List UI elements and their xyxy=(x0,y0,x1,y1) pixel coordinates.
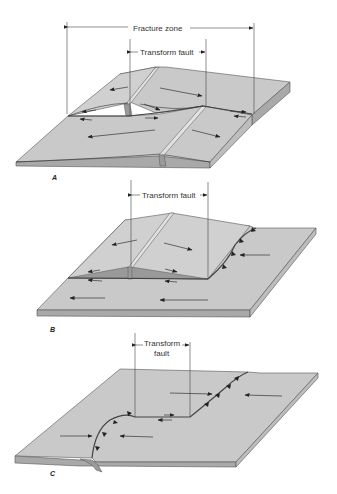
plate-c xyxy=(15,369,318,462)
panel-c: Transform fault C xyxy=(15,333,318,477)
fracture-zone-label: Fracture zone xyxy=(133,24,183,33)
panel-label-b: B xyxy=(50,326,55,333)
panel-label-c: C xyxy=(50,470,56,477)
ridge-b-notch xyxy=(128,267,132,279)
panel-label-a: A xyxy=(51,174,57,181)
panel-a: Fracture zone Transform fault A xyxy=(16,22,290,181)
transform-fault-label-b: Transform fault xyxy=(142,191,196,200)
plate-a-front xyxy=(16,106,252,162)
transform-fault-label-c-line2: fault xyxy=(154,349,170,358)
transform-fault-diagram: Fracture zone Transform fault A xyxy=(0,0,337,494)
transform-fault-label-c-line1: Transform xyxy=(144,339,180,348)
panel-b: Transform fault B xyxy=(37,180,316,333)
transform-fault-label-a: Transform fault xyxy=(140,48,194,57)
plate-b-front-side xyxy=(37,310,250,317)
ridge-a1-notch xyxy=(124,104,132,116)
